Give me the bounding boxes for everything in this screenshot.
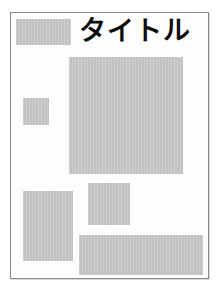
sidebar-thumb-placeholder-block: [23, 98, 49, 125]
document-page-canvas: タイトル: [11, 13, 208, 278]
document-page-frame: タイトル: [10, 12, 209, 279]
hero-image-placeholder-block: [69, 57, 183, 174]
logo-placeholder-block: [16, 19, 71, 45]
lower-left-placeholder-block: [23, 191, 73, 261]
footer-bar-placeholder-block: [79, 235, 203, 275]
lower-mid-placeholder-block: [88, 183, 130, 225]
page-title: タイトル: [79, 17, 191, 44]
